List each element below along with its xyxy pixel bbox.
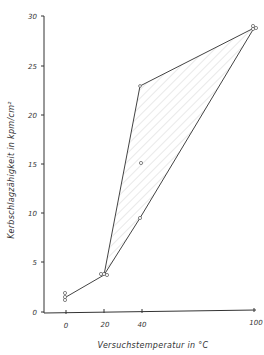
y-tick-labels: 30 25 20 15 10 5 0 [28, 13, 37, 317]
data-point-marker [139, 161, 142, 164]
y-tick-label: 20 [28, 112, 37, 120]
x-tick-label: 40 [138, 321, 147, 329]
data-point-marker [139, 85, 142, 88]
x-tick-label: 0 [64, 322, 69, 330]
y-tick-label: 25 [28, 63, 37, 71]
x-tick-label: 20 [101, 321, 110, 329]
x-axis-title: Versuchstemperatur in °C [98, 341, 209, 350]
x-tick-labels: 0 20 40 100 [64, 319, 263, 330]
data-point-marker [63, 298, 66, 301]
y-axis-title: Kerbschlagzähigkeit in kpm/cm² [7, 101, 16, 239]
y-tick-label: 5 [33, 259, 38, 267]
data-point-marker [105, 273, 108, 276]
data-point-marker [138, 216, 141, 219]
y-tick-label: 10 [28, 210, 37, 218]
y-tick-label: 15 [28, 161, 37, 169]
x-tick-label: 100 [249, 319, 263, 327]
y-tick-label: 0 [33, 309, 38, 317]
data-point-marker [254, 26, 257, 29]
data-point-marker [63, 291, 66, 294]
x-axis [44, 310, 256, 313]
impact-toughness-chart: 30 25 20 15 10 5 0 0 20 40 100 Versuchst… [0, 0, 264, 355]
y-tick-label: 30 [28, 13, 37, 21]
